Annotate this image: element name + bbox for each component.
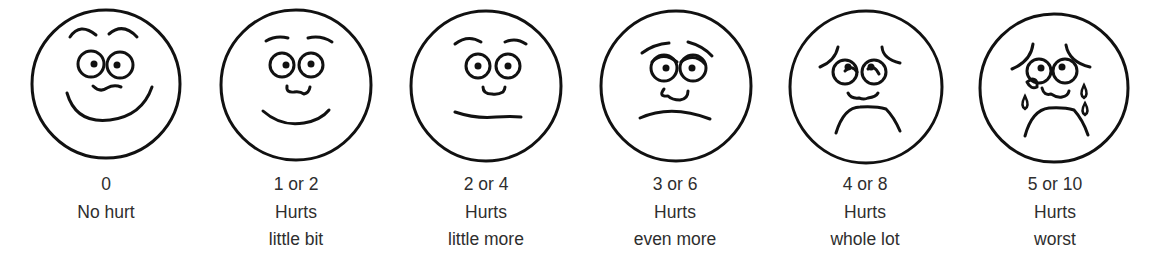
pain-description: No hurt [16, 199, 196, 227]
slight-smile-face-icon [221, 10, 371, 160]
pain-description-detail: little bit [206, 226, 386, 254]
pain-description-detail: worst [965, 226, 1145, 254]
pain-description-detail: little more [396, 226, 576, 254]
neutral-face-icon [411, 11, 561, 161]
pain-score: 4 or 8 [775, 171, 955, 199]
pain-description: Hurts [396, 199, 576, 227]
pain-description: Hurts [585, 199, 765, 227]
crying-face-icon [980, 14, 1128, 162]
pain-label-0: 0 No hurt [16, 171, 196, 226]
pain-score: 1 or 2 [206, 171, 386, 199]
sad-face-icon [790, 11, 942, 163]
pain-score: 5 or 10 [965, 171, 1145, 199]
smiling-face-icon [32, 10, 180, 158]
pain-label-3: 3 or 6 Hurts even more [585, 171, 765, 254]
pain-label-4: 4 or 8 Hurts whole lot [775, 171, 955, 254]
pain-score: 2 or 4 [396, 171, 576, 199]
pain-description: Hurts [775, 199, 955, 227]
pain-description: Hurts [206, 199, 386, 227]
pain-description-detail: whole lot [775, 226, 955, 254]
pain-label-1: 1 or 2 Hurts little bit [206, 171, 386, 254]
pain-score: 0 [16, 171, 196, 199]
pain-label-5: 5 or 10 Hurts worst [965, 171, 1145, 254]
pain-description: Hurts [965, 199, 1145, 227]
pain-score: 3 or 6 [585, 171, 765, 199]
pain-description-detail: even more [585, 226, 765, 254]
pain-label-2: 2 or 4 Hurts little more [396, 171, 576, 254]
frowning-face-icon [601, 11, 751, 161]
